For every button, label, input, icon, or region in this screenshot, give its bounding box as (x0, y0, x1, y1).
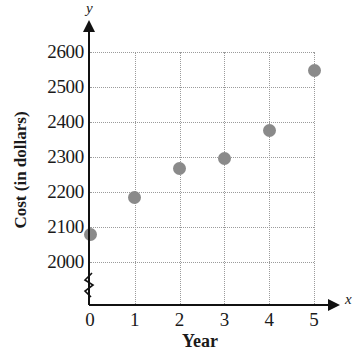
gridline-horizontal (90, 227, 314, 228)
gridline-horizontal (90, 52, 314, 53)
x-tick-label: 5 (299, 309, 329, 331)
y-axis-title: Cost (in dollars) (11, 75, 31, 265)
data-point (173, 162, 186, 175)
gridline-horizontal (90, 87, 314, 88)
plot-area (90, 52, 314, 280)
y-tick-label: 2200 (22, 182, 84, 201)
x-tick-label: 4 (254, 309, 284, 331)
data-point (128, 191, 141, 204)
x-axis-letter: x (345, 291, 352, 308)
data-point (84, 228, 97, 241)
x-axis-title: Year (120, 331, 280, 352)
x-axis-line (89, 304, 329, 306)
gridline-horizontal (90, 192, 314, 193)
y-axis-line (88, 30, 90, 305)
gridline-horizontal (90, 157, 314, 158)
x-tick-label: 1 (120, 309, 150, 331)
gridline-vertical (180, 52, 181, 306)
gridline-horizontal (90, 262, 314, 263)
data-point (218, 152, 231, 165)
x-tick-label: 0 (75, 309, 105, 331)
gridline-vertical (314, 52, 315, 306)
gridline-vertical (135, 52, 136, 306)
y-tick-label: 2000 (22, 252, 84, 271)
y-axis-arrow-icon (83, 20, 95, 32)
gridline-vertical (224, 52, 225, 306)
gridline-horizontal (90, 122, 314, 123)
y-tick-label: 2100 (22, 217, 84, 236)
gridline-vertical (269, 52, 270, 306)
x-tick-label: 2 (165, 309, 195, 331)
x-tick-label: 3 (209, 309, 239, 331)
data-point (308, 64, 321, 77)
y-axis-letter: y (86, 0, 93, 17)
x-axis-arrow-icon (328, 299, 340, 311)
y-tick-label: 2400 (22, 112, 84, 131)
y-tick-label: 2500 (22, 77, 84, 96)
y-tick-label: 2300 (22, 147, 84, 166)
scatter-plot-figure: y x 2000210022002300240025002600 012345 … (0, 0, 360, 356)
data-point (263, 124, 276, 137)
y-tick-label: 2600 (22, 42, 84, 61)
